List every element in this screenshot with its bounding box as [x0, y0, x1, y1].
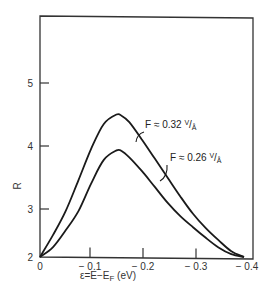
curve-annotation-label: F ≈ 0.26 V/Å — [170, 152, 222, 164]
curve-f-032 — [40, 114, 244, 257]
y-tick-label: 3 — [27, 204, 33, 215]
x-tick-label: 0 — [37, 261, 43, 272]
y-tick-label: 2 — [27, 252, 33, 263]
curves — [40, 114, 244, 257]
curve-f-026 — [40, 150, 244, 257]
x-axis-label: ε=E−EF (eV) — [80, 270, 136, 283]
y-axis-ticks: 2345 — [27, 78, 49, 263]
y-tick-label: 4 — [27, 141, 33, 152]
curve-annotation-label: F ≈ 0.32 V/Å — [145, 119, 197, 131]
chart: 2345 0− 0.1− 0.2− 0.3− 0.4 F ≈ 0.32 V/ÅF… — [0, 0, 269, 298]
x-tick-label: − 0.4 — [236, 261, 259, 272]
y-axis-label: R — [12, 182, 23, 189]
y-tick-label: 5 — [27, 78, 33, 89]
x-tick-label: − 0.3 — [185, 261, 208, 272]
